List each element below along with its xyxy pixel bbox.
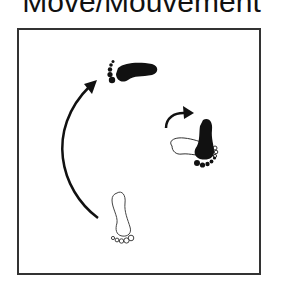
foot-outline-start-icon: [111, 192, 133, 243]
foot-filled-down-icon: [194, 119, 216, 167]
movement-diagram: [0, 0, 283, 296]
large-curved-arrow-icon: [62, 80, 98, 218]
small-curved-arrow-icon: [166, 106, 194, 128]
foot-filled-left-icon: [107, 60, 157, 83]
